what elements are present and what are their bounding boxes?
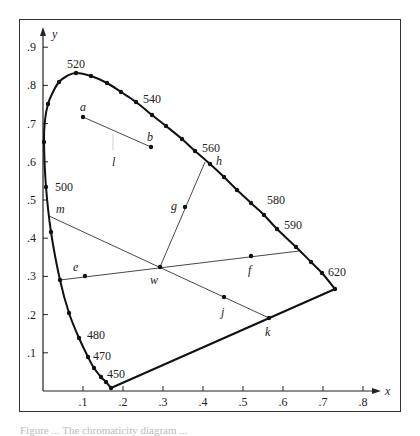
- point-label: j: [219, 305, 225, 319]
- y-axis-arrow-icon: [40, 27, 46, 36]
- wavelength-label: 520: [67, 57, 85, 71]
- locus-dot: [42, 140, 46, 144]
- locus-dot: [134, 100, 138, 104]
- locus-dot: [57, 80, 61, 84]
- y-tick-label: .5: [27, 193, 36, 207]
- locus-dot: [235, 188, 239, 192]
- wavelength-label: 450: [107, 367, 125, 381]
- locus-dot: [208, 162, 212, 166]
- point-label: w: [150, 273, 158, 287]
- locus-dot: [109, 386, 113, 390]
- x-tick-label: .7: [319, 395, 328, 409]
- wavelength-label: 470: [93, 349, 111, 363]
- wavelength-label: 620: [328, 265, 346, 279]
- x-tick-label: .1: [79, 395, 88, 409]
- x-tick-label: .6: [279, 395, 288, 409]
- point-dot: [83, 274, 87, 278]
- locus-dot: [320, 271, 324, 275]
- construction-line: [83, 117, 151, 147]
- x-tick-label: .5: [239, 395, 248, 409]
- locus-dot: [150, 113, 154, 117]
- point-label: a: [80, 100, 86, 114]
- locus-dot: [74, 71, 78, 75]
- locus-dot: [89, 74, 93, 78]
- locus-dot: [262, 213, 266, 217]
- locus-dot: [309, 260, 313, 264]
- axes: .1.2.3.4.5.6.7.8.1.2.3.4.5.6.7.8.9xy: [27, 27, 391, 409]
- locus-dot: [92, 366, 96, 370]
- point-dot: [249, 254, 253, 258]
- construction-line: [60, 251, 299, 280]
- locus-dot: [249, 201, 253, 205]
- point-dot: [267, 316, 271, 320]
- point-label: b: [147, 130, 153, 144]
- y-tick-label: .2: [27, 308, 36, 322]
- wavelength-label: 500: [55, 180, 73, 194]
- locus-dot: [99, 375, 103, 379]
- labels: 520540560580590620500480470450ablhgmefwj…: [55, 57, 346, 381]
- point-label: m: [56, 202, 65, 216]
- wavelength-label: 560: [202, 141, 220, 155]
- y-axis-label: y: [51, 27, 58, 41]
- locus-dot: [222, 175, 226, 179]
- locus-dot: [77, 336, 81, 340]
- locus-dot: [49, 230, 53, 234]
- locus-dot: [105, 81, 109, 85]
- point-label: g: [171, 199, 177, 213]
- locus-dot: [193, 149, 197, 153]
- point-label: l: [112, 155, 116, 169]
- point-label: k: [265, 325, 271, 339]
- point-dot: [222, 295, 226, 299]
- y-tick-label: .7: [27, 117, 36, 131]
- y-tick-label: .3: [27, 269, 36, 283]
- locus-dot: [44, 185, 48, 189]
- y-tick-label: .1: [27, 346, 36, 360]
- x-tick-label: .2: [119, 395, 128, 409]
- construction-line: [160, 162, 205, 267]
- locus-dot: [164, 124, 168, 128]
- point-label: h: [216, 154, 222, 168]
- y-tick-label: .6: [27, 155, 36, 169]
- locus-dot: [86, 355, 90, 359]
- locus-dot: [119, 90, 123, 94]
- x-axis-label: x: [384, 384, 391, 398]
- y-tick-label: .8: [27, 78, 36, 92]
- point-dot: [81, 115, 85, 119]
- line-of-purples: [111, 289, 335, 388]
- x-tick-label: .3: [159, 395, 168, 409]
- figure-caption: Figure ... The chromaticity diagram ...: [20, 424, 188, 436]
- locus-dot: [333, 287, 337, 291]
- point-dot: [149, 145, 153, 149]
- point-label: e: [73, 260, 79, 274]
- construction-lines: [49, 117, 299, 318]
- y-tick-label: .4: [27, 231, 36, 245]
- locus-dot: [180, 137, 184, 141]
- x-tick-label: .4: [199, 395, 208, 409]
- locus-dot: [67, 311, 71, 315]
- point-label: f: [248, 263, 253, 277]
- wavelength-label: 540: [143, 92, 161, 106]
- locus-dot: [46, 102, 50, 106]
- wavelength-label: 480: [87, 328, 105, 342]
- locus-dot: [294, 245, 298, 249]
- locus-dot: [58, 278, 62, 282]
- point-dot: [183, 205, 187, 209]
- x-axis-arrow-icon: [372, 388, 381, 394]
- y-tick-label: .9: [27, 40, 36, 54]
- wavelength-label: 590: [284, 218, 302, 232]
- x-tick-label: .8: [359, 395, 368, 409]
- wavelength-label: 580: [267, 193, 285, 207]
- point-dot: [158, 265, 162, 269]
- locus-dot: [275, 227, 279, 231]
